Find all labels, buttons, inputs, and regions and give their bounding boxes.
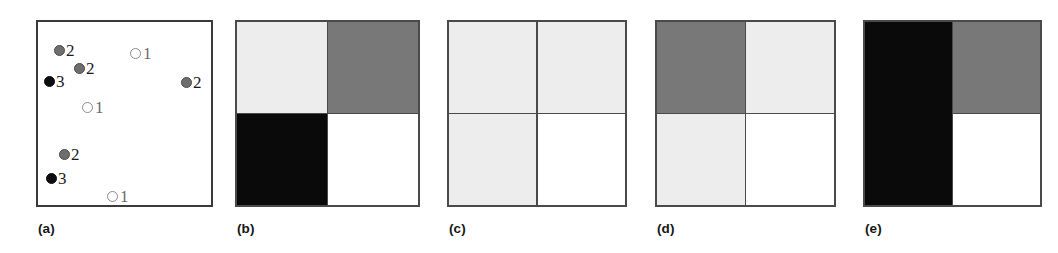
black-filled-circle-icon — [44, 76, 55, 87]
quadrant-bottom-right — [328, 114, 418, 205]
quadrant-bottom-right — [953, 114, 1040, 205]
scatter-point: 1 — [107, 188, 129, 205]
panel-b-quadrant-grid — [235, 20, 420, 207]
gray-filled-circle-icon — [54, 45, 65, 56]
gray-filled-circle-icon — [59, 149, 70, 160]
scatter-point-label: 2 — [86, 60, 95, 77]
hollow-circle-icon — [107, 191, 118, 202]
gray-filled-circle-icon — [181, 77, 192, 88]
quadrant-bottom-left — [657, 114, 745, 205]
quadrant-bottom-right — [538, 114, 625, 205]
quadrant-top-left — [449, 22, 536, 113]
quadrant-bottom-left — [237, 114, 327, 205]
black-filled-circle-icon — [46, 173, 57, 184]
scatter-point: 3 — [44, 73, 65, 90]
quadrant-top-right — [328, 22, 418, 113]
scatter-point: 2 — [74, 60, 95, 77]
quadrant-top-right — [538, 22, 625, 113]
quadrant-left-column-merged — [865, 22, 952, 205]
scatter-point-label: 3 — [58, 170, 67, 187]
panel-d-caption: (d) — [657, 222, 675, 236]
scatter-point-label: 1 — [143, 45, 152, 62]
scatter-point: 2 — [181, 74, 202, 91]
quadrant-top-right — [953, 22, 1040, 113]
scatter-point: 1 — [82, 99, 104, 116]
panel-c-quadrant-grid — [447, 20, 627, 207]
quadrant-top-left — [657, 22, 745, 113]
scatter-point-label: 2 — [193, 74, 202, 91]
scatter-point-label: 1 — [120, 188, 129, 205]
panel-d-quadrant-grid — [655, 20, 836, 207]
scatter-point: 3 — [46, 170, 67, 187]
scatter-point-label: 1 — [95, 99, 104, 116]
gray-filled-circle-icon — [74, 63, 85, 74]
quadrant-bottom-right — [746, 114, 834, 205]
panel-e-caption: (e) — [865, 222, 882, 236]
panel-a-scatter: 2 1 2 3 2 1 2 3 — [36, 20, 213, 207]
scatter-point-label: 2 — [71, 146, 80, 163]
scatter-point: 2 — [54, 42, 75, 59]
panel-c-caption: (c) — [449, 222, 466, 236]
quadrant-bottom-left — [449, 114, 536, 205]
panel-a-caption: (a) — [38, 222, 55, 236]
figure-container: 2 1 2 3 2 1 2 3 — [0, 0, 1058, 253]
scatter-point: 1 — [130, 45, 152, 62]
hollow-circle-icon — [130, 48, 141, 59]
panel-e-quadrant-grid — [863, 20, 1042, 207]
quadrant-top-left — [237, 22, 327, 113]
quadrant-top-right — [746, 22, 834, 113]
hollow-circle-icon — [82, 102, 93, 113]
scatter-point-label: 3 — [56, 73, 65, 90]
panel-b-caption: (b) — [237, 222, 255, 236]
scatter-point-label: 2 — [66, 42, 75, 59]
scatter-point: 2 — [59, 146, 80, 163]
